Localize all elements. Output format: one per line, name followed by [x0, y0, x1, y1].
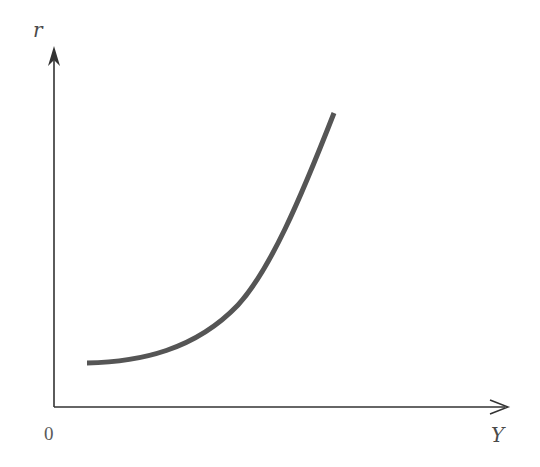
y-axis-label: r: [33, 20, 43, 40]
x-axis-label: Y: [491, 425, 504, 445]
origin-label: 0: [44, 424, 54, 443]
chart-canvas: [0, 0, 540, 467]
r-curve: [87, 113, 334, 363]
